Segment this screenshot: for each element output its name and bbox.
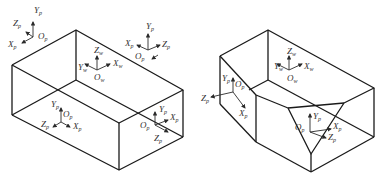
label-z-p: Zp [41, 120, 49, 130]
label-z-p: Zp [201, 94, 209, 104]
label-z-p: Zp [154, 134, 162, 144]
label-z-w: Zw [287, 47, 296, 57]
label-y-p: Yp [159, 105, 167, 115]
label-z-p: Zp [13, 19, 21, 29]
label-o-w: Ow [94, 73, 105, 83]
label-o-p: Op [295, 123, 305, 133]
left-world-frame [85, 56, 110, 70]
diagram-canvas [0, 0, 382, 183]
coordinate-frames-diagram: Yp Zp Op Xp Yp Xp Zp Op Zw Xw Yw Ow Yp O… [0, 0, 382, 183]
label-z-p: Zp [328, 133, 336, 143]
label-x-p: Xp [239, 109, 248, 119]
right-chamfered-box [220, 30, 374, 172]
label-o-p: Op [235, 80, 245, 90]
label-y-p: Yp [313, 112, 321, 122]
label-o-p: Op [135, 52, 145, 62]
label-y-p: Yp [51, 100, 59, 110]
label-y-w: Yw [274, 62, 283, 72]
label-x-p: Xp [333, 122, 342, 132]
label-y-p: Yp [34, 6, 42, 16]
label-x-p: Xp [73, 122, 82, 132]
label-x-w: Xw [304, 62, 314, 72]
label-o-p: Op [38, 32, 48, 42]
label-x-p: Xp [125, 39, 134, 49]
label-o-p: Op [140, 121, 150, 131]
left-frontface-frame [155, 112, 168, 132]
label-x-p: Xp [170, 113, 179, 123]
label-y-p: Yp [146, 22, 154, 32]
label-y-w: Yw [78, 63, 87, 73]
label-x-w: Xw [113, 59, 123, 69]
label-x-p: Xp [8, 40, 17, 50]
label-z-p: Zp [162, 40, 170, 50]
label-y-p: Yp [222, 74, 230, 84]
label-o-w: Ow [287, 74, 298, 84]
left-topleft-frame [22, 22, 33, 43]
label-z-w: Zw [94, 46, 103, 56]
label-o-p: Op [63, 110, 73, 120]
